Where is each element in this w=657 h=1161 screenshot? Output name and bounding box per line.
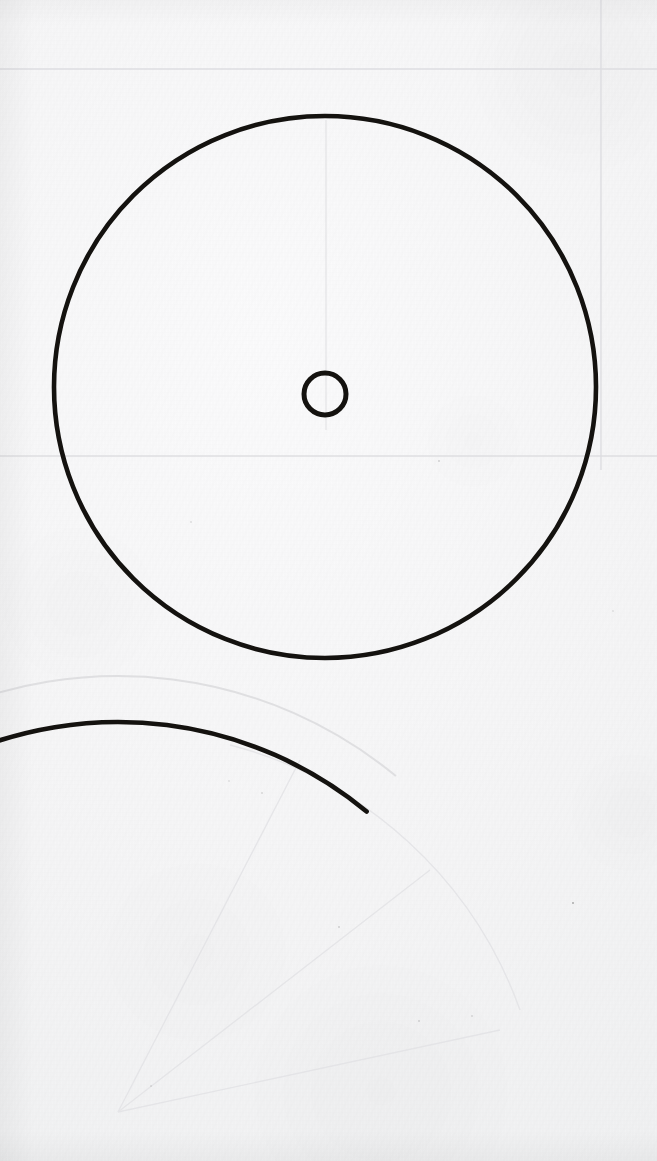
- scan-speck: [438, 460, 440, 462]
- drawing-sheet: [0, 0, 657, 1161]
- scan-speck: [228, 780, 230, 782]
- scan-speck: [612, 610, 614, 612]
- scan-speck: [338, 926, 340, 928]
- scan-speck: [572, 902, 574, 904]
- scan-speck: [418, 1020, 420, 1022]
- scan-speck: [190, 521, 192, 523]
- scan-speck: [471, 1015, 473, 1017]
- scan-specks-layer: [0, 0, 657, 1161]
- scan-speck: [261, 792, 263, 794]
- scan-speck: [150, 1085, 152, 1087]
